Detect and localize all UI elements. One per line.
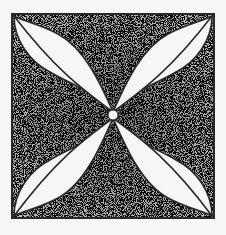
center-disc [108,110,118,120]
stippled-petal-tile [0,0,226,235]
